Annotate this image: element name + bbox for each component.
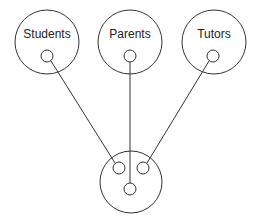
hub-bottom-port: [124, 183, 136, 195]
students-label: Students: [12, 27, 82, 41]
edge-tutors-hub: [147, 61, 209, 163]
hub-left-port: [113, 162, 125, 174]
hub-circle: [100, 151, 162, 213]
students-node-circle: [15, 10, 79, 74]
tutors-node-circle: [182, 10, 246, 74]
tutors-label: Tutors: [179, 27, 249, 41]
students-port: [41, 50, 53, 62]
hub-right-port: [137, 162, 149, 174]
parents-label: Parents: [95, 27, 165, 41]
parents-port: [124, 50, 136, 62]
tutors-port: [207, 50, 219, 62]
edge-students-hub: [51, 61, 115, 163]
